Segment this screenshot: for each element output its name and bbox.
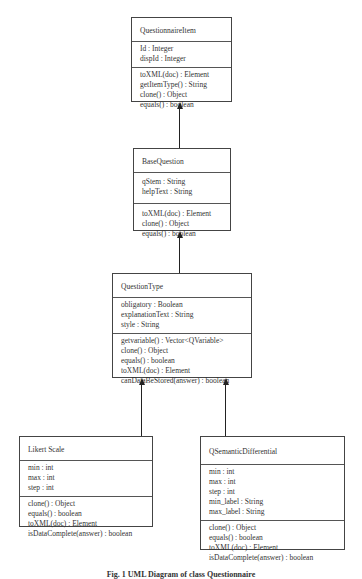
attribute: step : int bbox=[209, 487, 338, 497]
method: equals() : boolean bbox=[142, 229, 224, 239]
class-qsemanticdifferential: QSemanticDifferential min : int max : in… bbox=[200, 436, 345, 550]
method: clone() : Object bbox=[28, 499, 146, 509]
attribute: max : int bbox=[209, 477, 338, 487]
class-name: QSemanticDifferential bbox=[201, 437, 344, 464]
attribute: max_label : String bbox=[209, 507, 338, 517]
figure-caption: Fig. 1 UML Diagram of class Questionnair… bbox=[0, 570, 362, 579]
method: isDataComplete(answer) : boolean bbox=[28, 529, 146, 539]
attribute: min : int bbox=[28, 463, 146, 473]
class-name: QuestionType bbox=[113, 274, 251, 297]
inheritance-connector bbox=[225, 384, 227, 440]
methods: getvariable() : Vector<QVariable> clone(… bbox=[113, 333, 251, 389]
class-questionnaireitem: QuestionnaireItem Id : Integer dispId : … bbox=[131, 17, 232, 102]
attributes: min : int max : int step : int bbox=[20, 460, 152, 496]
class-name: Likert Scale bbox=[20, 437, 152, 460]
method: clone() : Object bbox=[209, 523, 338, 533]
method: toXML(doc) : Element bbox=[121, 366, 245, 376]
method: equals() : boolean bbox=[121, 356, 245, 366]
attributes: min : int max : int step : int min_label… bbox=[201, 464, 344, 520]
method: toXML(doc) : Element bbox=[28, 519, 146, 529]
attribute: explanationText : String bbox=[121, 310, 245, 320]
class-name: BaseQuestion bbox=[134, 149, 230, 172]
method: equals() : boolean bbox=[209, 533, 338, 543]
attribute: qStem : String bbox=[142, 177, 224, 187]
attribute: obligatory : Boolean bbox=[121, 300, 245, 310]
inheritance-connector bbox=[179, 237, 181, 273]
method: toXML(doc) : Element bbox=[140, 70, 225, 80]
method: clone() : Object bbox=[140, 90, 225, 100]
method: clone() : Object bbox=[142, 219, 224, 229]
methods: clone() : Object equals() : boolean toXM… bbox=[20, 496, 152, 542]
inheritance-connector bbox=[179, 108, 181, 148]
method: getItemType() : String bbox=[140, 80, 225, 90]
attribute: Id : Integer bbox=[140, 44, 225, 54]
attribute: style : String bbox=[121, 320, 245, 330]
methods: clone() : Object equals() : boolean toXM… bbox=[201, 520, 344, 566]
class-name: QuestionnaireItem bbox=[132, 18, 231, 41]
method: toXML(doc) : Element bbox=[209, 543, 338, 553]
attribute: max : int bbox=[28, 473, 146, 483]
class-questiontype: QuestionType obligatory : Boolean explan… bbox=[112, 273, 252, 378]
attribute: helpText : String bbox=[142, 187, 224, 197]
inheritance-connector bbox=[141, 384, 143, 440]
class-likert-scale: Likert Scale min : int max : int step : … bbox=[19, 436, 153, 527]
class-basequestion: BaseQuestion qStem : String helpText : S… bbox=[133, 148, 231, 231]
attributes: Id : Integer dispId : Integer bbox=[132, 41, 231, 67]
method: toXML(doc) : Element bbox=[142, 209, 224, 219]
attribute: min : int bbox=[209, 467, 338, 477]
method: clone() : Object bbox=[121, 346, 245, 356]
attributes: qStem : String helpText : String bbox=[134, 172, 230, 203]
attribute: dispId : Integer bbox=[140, 54, 225, 64]
method: equals() : boolean bbox=[28, 509, 146, 519]
method: equals() : boolean bbox=[140, 100, 225, 110]
attribute: step : int bbox=[28, 483, 146, 493]
method: getvariable() : Vector<QVariable> bbox=[121, 336, 245, 346]
attribute: min_label : String bbox=[209, 497, 338, 507]
method: isDataComplete(answer) : boolean bbox=[209, 553, 338, 563]
attributes: obligatory : Boolean explanationText : S… bbox=[113, 297, 251, 333]
